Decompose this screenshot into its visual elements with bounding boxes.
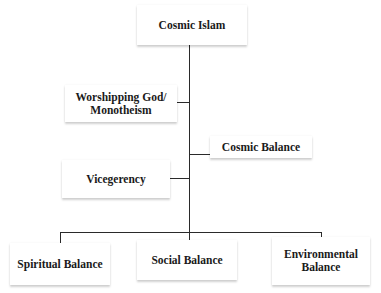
node-spiritual-balance: Spiritual Balance <box>10 243 110 285</box>
node-label: Vicegerency <box>86 173 145 186</box>
connector-worshipping <box>177 102 189 103</box>
connector-cosmic-balance <box>189 154 210 155</box>
node-cosmic-islam: Cosmic Islam <box>137 5 247 45</box>
node-label: Social Balance <box>151 254 222 267</box>
drop-line-social <box>189 232 190 240</box>
bottom-branch-line <box>60 232 322 233</box>
main-trunk-line <box>189 44 190 233</box>
node-social-balance: Social Balance <box>137 240 237 280</box>
connector-vicegerency <box>170 178 189 179</box>
node-label: Environmental Balance <box>284 248 358 274</box>
node-label: Worshipping God/ Monotheism <box>75 91 166 117</box>
node-cosmic-balance: Cosmic Balance <box>210 136 312 158</box>
drop-line-spiritual <box>60 232 61 243</box>
node-environmental-balance: Environmental Balance <box>272 237 370 285</box>
node-label: Cosmic Balance <box>222 141 300 154</box>
node-worshipping-god-monotheism: Worshipping God/ Monotheism <box>65 85 177 122</box>
node-label: Cosmic Islam <box>159 19 226 32</box>
node-vicegerency: Vicegerency <box>62 160 170 198</box>
node-label: Spiritual Balance <box>17 258 102 271</box>
